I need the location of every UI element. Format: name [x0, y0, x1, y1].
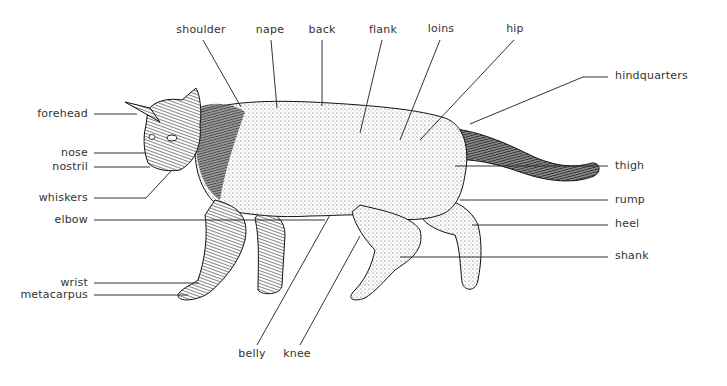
label-forehead: forehead: [37, 108, 88, 120]
label-heel: heel: [615, 218, 639, 230]
cat-front-leg-forward: [178, 200, 246, 300]
label-rump: rump: [615, 194, 645, 206]
label-nostril: nostril: [52, 161, 88, 173]
label-shoulder: shoulder: [176, 24, 225, 36]
label-hip: hip: [506, 23, 524, 35]
label-metacarpus: metacarpus: [20, 289, 88, 301]
cat-head: [144, 88, 201, 171]
label-belly: belly: [238, 348, 265, 360]
label-flank: flank: [369, 24, 397, 36]
label-knee: knee: [283, 348, 311, 360]
label-loins: loins: [428, 23, 455, 35]
label-hindquarters: hindquarters: [615, 70, 688, 82]
label-nape: nape: [256, 24, 284, 36]
cat-anatomy-diagram: forehead nose nostril whiskers elbow wri…: [0, 0, 727, 386]
label-elbow: elbow: [54, 214, 88, 226]
cat-front-leg-back: [255, 210, 285, 294]
label-whiskers: whiskers: [39, 192, 88, 204]
label-nose: nose: [61, 147, 88, 159]
label-thigh: thigh: [615, 160, 644, 172]
label-back: back: [309, 24, 336, 36]
label-shank: shank: [615, 250, 649, 262]
cat-eye: [167, 135, 177, 141]
